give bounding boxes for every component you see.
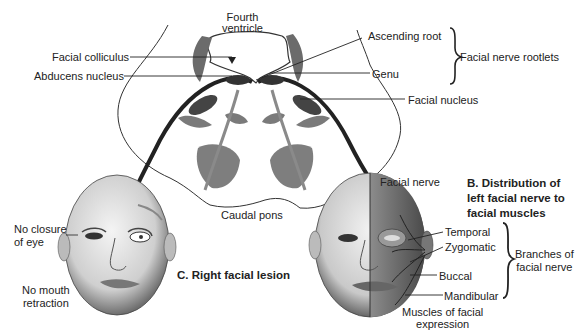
face-right-lesion: [58, 175, 176, 315]
panel-b-title-line2: left facial nerve to: [467, 191, 565, 206]
no-eye-closure-label: No closure of eye: [14, 223, 67, 249]
no-mouth-retraction-label: No mouth retraction: [22, 284, 70, 310]
muscles-label-line1: Muscles of facial: [402, 306, 483, 318]
abducens-nucleus-label: Abducens nucleus: [34, 70, 124, 82]
no-mouth-retraction-line1: No mouth: [22, 284, 70, 297]
branches-of-facial-nerve-label: Branches of facial nerve: [515, 248, 574, 274]
panel-b-title: B. Distribution of left facial nerve to …: [467, 176, 565, 221]
branches-group-line2: facial nerve: [515, 261, 574, 274]
branch-temporal-label: Temporal: [445, 226, 490, 238]
facial-nerve-label: Facial nerve: [380, 176, 440, 188]
fourth-ventricle-label-line2: ventricle: [222, 23, 263, 34]
branch-buccal-label: Buccal: [439, 270, 472, 282]
fourth-ventricle-label: Fourth ventricle: [222, 12, 263, 34]
muscles-facial-expression-label: Muscles of facial expression: [402, 306, 483, 330]
no-eye-closure-line1: No closure: [14, 223, 67, 236]
branch-zygomatic-label: Zygomatic: [445, 241, 496, 253]
genu-label: Genu: [372, 68, 399, 80]
no-eye-closure-line2: of eye: [14, 236, 67, 249]
branch-mandibular-label: Mandibular: [444, 290, 498, 302]
diagram-artwork: [0, 0, 585, 333]
branches-group-line1: Branches of: [515, 248, 574, 261]
caudal-pons-title: Caudal pons: [221, 209, 283, 221]
panel-c-title: C. Right facial lesion: [177, 268, 290, 283]
no-mouth-retraction-line2: retraction: [22, 297, 70, 310]
facial-nucleus-label: Facial nucleus: [408, 94, 478, 106]
muscles-label-line2: expression: [402, 318, 483, 330]
facial-nerve-rootlets-label: Facial nerve rootlets: [460, 51, 559, 63]
panel-b-title-line1: B. Distribution of: [467, 176, 565, 191]
facial-colliculus-label: Facial colliculus: [52, 51, 129, 63]
panel-b-title-line3: facial muscles: [467, 206, 565, 221]
ascending-root-label: Ascending root: [368, 30, 441, 42]
